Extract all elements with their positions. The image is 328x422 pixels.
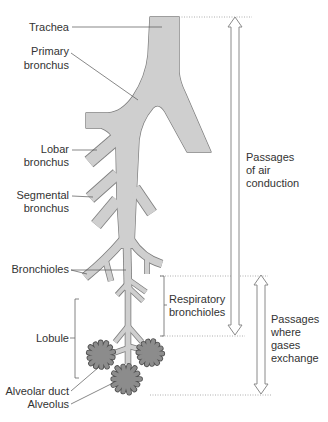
label-text: Alveolus bbox=[27, 398, 69, 410]
alveolar-sac-cluster bbox=[113, 366, 140, 393]
label-text: bronchioles bbox=[169, 306, 226, 318]
label-respiratory-bronchioles: Respiratory bronchioles bbox=[160, 276, 226, 336]
alveolar-sac bbox=[92, 346, 109, 363]
leader-line bbox=[71, 53, 138, 100]
segmental-bronchus-branch bbox=[135, 188, 152, 213]
respiratory-bronchioles-bracket bbox=[160, 276, 164, 336]
zone-label-air-conduction: Passages of air conduction bbox=[246, 151, 299, 189]
zone-text: of air bbox=[246, 164, 271, 176]
label-text: bronchus bbox=[24, 156, 70, 168]
zone-text: Passages bbox=[271, 313, 320, 325]
label-text: Primary bbox=[31, 45, 69, 57]
zone-text: Passages bbox=[246, 151, 295, 163]
double-arrow-gas-exchange-icon bbox=[254, 275, 268, 394]
bronchiole-branch bbox=[106, 262, 111, 281]
label-text: Alveolar duct bbox=[5, 385, 69, 397]
label-text: Respiratory bbox=[169, 293, 226, 305]
alveolar-sac-cluster bbox=[138, 341, 162, 364]
label-text: Lobule bbox=[36, 332, 69, 344]
label-text: Segmental bbox=[16, 189, 69, 201]
bronchiole-branch bbox=[85, 240, 123, 277]
lobule-bracket bbox=[75, 299, 79, 378]
alveolar-sac bbox=[117, 370, 136, 389]
label-text: Trachea bbox=[29, 21, 70, 33]
zone-text: where bbox=[270, 326, 301, 338]
label-alveolar-duct: Alveolar duct bbox=[5, 367, 99, 397]
label-text: bronchus bbox=[24, 202, 70, 214]
label-lobule: Lobule bbox=[36, 299, 79, 378]
terminal-bronchiole bbox=[127, 245, 128, 290]
zone-text: conduction bbox=[246, 177, 299, 189]
label-text: Lobar bbox=[41, 143, 69, 155]
double-arrow-air-conduction-icon bbox=[228, 17, 242, 335]
alveolar-sac-cluster bbox=[89, 342, 114, 367]
alveolar-sac bbox=[142, 345, 158, 361]
respiratory-tree-diagram: Trachea Primary bronchus Lobar bronchus … bbox=[0, 0, 328, 422]
leader-line bbox=[71, 383, 113, 404]
label-primary-bronchus: Primary bronchus bbox=[24, 45, 138, 100]
label-segmental-bronchus: Segmental bronchus bbox=[16, 189, 93, 214]
zone-text: exchange bbox=[271, 352, 319, 364]
label-lobar-bronchus: Lobar bronchus bbox=[24, 143, 97, 168]
label-trachea: Trachea bbox=[29, 21, 162, 33]
zone-text: gases bbox=[271, 339, 301, 351]
zone-label-gas-exchange: Passages where gases exchange bbox=[270, 313, 320, 364]
label-text: bronchus bbox=[24, 59, 70, 71]
label-text: Bronchioles bbox=[12, 263, 70, 275]
